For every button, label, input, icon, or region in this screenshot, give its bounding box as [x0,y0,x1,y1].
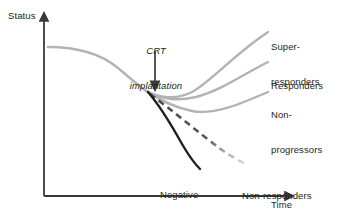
negative-responders-line1: Negative [160,189,209,201]
crt-implantation-annotation: CRT implantation [122,22,190,114]
crt-annotation-line2: implantation [122,80,190,92]
curve-label-non-progressors: Non- progressors [271,86,322,178]
super-responders-line1: Super- [271,41,320,53]
curve-label-negative-responders: Negative responders [160,166,209,220]
curve-label-non-responders: Non-responders [242,167,312,220]
non-progressors-line2: progressors [271,144,322,156]
non-progressors-line1: Non- [271,109,322,121]
non-responders-line1: Non-responders [242,190,312,202]
crt-annotation-line1: CRT [122,45,190,57]
y-axis-label: Status [8,10,36,22]
crt-response-trajectory-diagram: Status Time CRT implantation Super- resp… [0,0,339,220]
